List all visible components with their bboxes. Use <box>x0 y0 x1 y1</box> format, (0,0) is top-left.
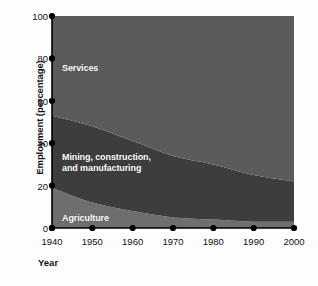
y-axis-tick-marker <box>49 98 55 104</box>
series-label-mining: Mining, construction, and manufacturing <box>62 152 151 174</box>
x-axis-tick-label: 1980 <box>191 236 235 247</box>
x-axis-tick-label: 1950 <box>70 236 114 247</box>
y-axis-tick-marker <box>49 55 55 61</box>
x-axis-tick-marker <box>49 225 55 231</box>
x-axis-tick-marker <box>251 225 257 231</box>
x-axis-title: Year <box>38 257 58 268</box>
x-axis-tick-marker <box>89 225 95 231</box>
y-axis-tick-marker <box>49 183 55 189</box>
x-axis-tick-labels: 1940195019601970198019902000 <box>0 236 318 254</box>
x-axis-tick-label: 1960 <box>111 236 155 247</box>
x-axis-tick-label: 2000 <box>272 236 316 247</box>
series-label-mining-line1: Mining, construction, <box>62 152 151 163</box>
y-axis-tick-marker <box>49 140 55 146</box>
series-label-mining-line2: and manufacturing <box>62 163 151 174</box>
x-axis-tick-label: 1970 <box>151 236 195 247</box>
y-axis-tick-marker <box>49 13 55 19</box>
x-axis-tick-marker <box>130 225 136 231</box>
chart-figure: Employment (percentage) 020406080100 Ser… <box>0 0 318 286</box>
series-label-services: Services <box>62 63 98 74</box>
x-axis-tick-marker <box>170 225 176 231</box>
x-axis-tick-label: 1990 <box>232 236 276 247</box>
x-axis-tick-label: 1940 <box>30 236 74 247</box>
x-axis-tick-marker <box>291 225 297 231</box>
x-axis-tick-marker <box>210 225 216 231</box>
series-label-agriculture: Agriculture <box>62 213 109 224</box>
